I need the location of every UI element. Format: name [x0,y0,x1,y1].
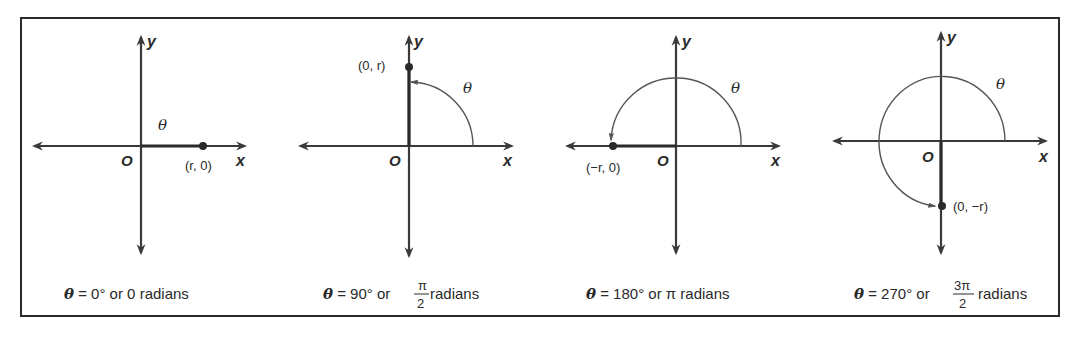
point-label: (−r, 0) [586,160,620,175]
angle-label: θ [463,79,472,97]
fraction-numerator: 3π [954,278,970,293]
origin-label: O [121,152,133,169]
fraction-denominator: 2 [959,296,966,311]
point-marker [609,142,617,150]
y-label: y [681,33,692,50]
panel-270-degrees: y x O θ (0, −r) θ = 270° or 3π 2 radians [834,29,1049,311]
quadrantal-angles-diagram: y x O θ (r, 0) θ = 0° or 0 radians y x O… [0,0,1076,340]
y-label: y [413,33,424,50]
caption: θ = 90° or [323,285,390,303]
caption-tail: radians [430,285,479,302]
caption: θ = 270° or [854,285,930,303]
x-label: x [770,152,781,169]
origin-label: O [922,148,934,165]
caption-tail: radians [978,285,1027,302]
point-marker [199,142,207,150]
panel-0-degrees: y x O θ (r, 0) θ = 0° or 0 radians [34,33,246,303]
point-label: (r, 0) [185,158,212,173]
y-label: y [146,33,157,50]
caption: θ = 0° or 0 radians [64,285,189,303]
angle-label: θ [731,79,740,97]
x-label: x [502,152,513,169]
fraction-denominator: 2 [417,296,424,311]
x-label: x [1038,148,1049,165]
point-label: (0, −r) [953,199,988,214]
point-label: (0, r) [358,58,385,73]
point-marker [938,202,946,210]
panel-90-degrees: y x O θ (0, r) θ = 90° or π 2 radians [300,33,513,311]
panel-180-degrees: y x O θ (−r, 0) θ = 180° or π radians [567,33,781,303]
y-label: y [946,29,957,46]
angle-label: θ [996,75,1005,93]
x-label: x [235,152,246,169]
angle-label: θ [158,116,167,134]
origin-label: O [389,152,401,169]
fraction-numerator: π [418,278,427,293]
point-marker [405,63,413,71]
caption: θ = 180° or π radians [586,285,730,303]
origin-label: O [657,152,669,169]
